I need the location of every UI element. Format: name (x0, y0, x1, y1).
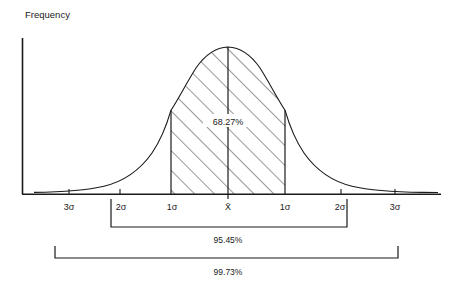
mid-percent-label: 95.45% (214, 235, 243, 245)
outer-percent-label: 99.73% (214, 267, 243, 277)
inner-percent-label: 68.27% (213, 117, 244, 127)
y-axis-title: Frequency (25, 9, 70, 20)
tick-label-neg2sigma: 2σ (116, 202, 127, 212)
three-sigma-bracket-path (55, 246, 398, 258)
tick-label-pos1sigma: 1σ (280, 202, 291, 212)
normal-distribution-figure: Frequency 68.27% 3σ 2σ 1σ X̄ 1σ 2σ 3σ (0, 0, 457, 293)
tick-label-neg1sigma: 1σ (167, 202, 178, 212)
tick-label-mean: X̄ (225, 202, 231, 212)
x-axis-tick-labels: 3σ 2σ 1σ X̄ 1σ 2σ 3σ (64, 202, 401, 212)
tick-label-neg3sigma: 3σ (64, 202, 75, 212)
tick-label-pos3sigma: 3σ (390, 202, 401, 212)
tick-label-pos2sigma: 2σ (335, 202, 346, 212)
three-sigma-bracket: 99.73% (55, 246, 398, 277)
inner-percent-annotation: 68.27% (203, 114, 253, 127)
chart-canvas: Frequency 68.27% 3σ 2σ 1σ X̄ 1σ 2σ 3σ (0, 0, 457, 293)
